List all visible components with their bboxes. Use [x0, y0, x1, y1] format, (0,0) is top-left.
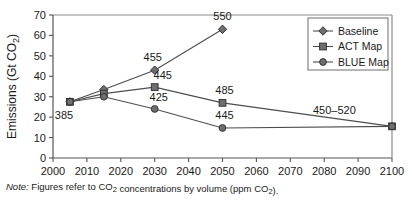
data-point-square — [320, 43, 327, 50]
y-tick-label: 0 — [40, 152, 46, 164]
legend-item-baseline[interactable]: Baseline — [313, 25, 378, 37]
point-label: 450–520 — [313, 104, 356, 116]
data-point-circle — [67, 98, 74, 105]
point-label: 485 — [215, 84, 233, 96]
footnote-note-prefix: Note: — [6, 181, 29, 192]
point-label: 445 — [154, 69, 172, 81]
point-label: 425 — [150, 91, 168, 103]
x-tick-label: 2070 — [278, 165, 302, 177]
x-tick-label: 2060 — [244, 165, 268, 177]
data-point-circle — [389, 123, 396, 130]
data-point-circle — [219, 125, 226, 132]
legend-label: BLUE Map — [338, 56, 389, 68]
legend-label: Baseline — [338, 25, 378, 37]
x-tick-label: 2100 — [380, 165, 404, 177]
x-tick-label: 2000 — [41, 165, 65, 177]
x-tick-label: 2040 — [176, 165, 200, 177]
y-tick-label: 40 — [34, 70, 46, 82]
y-tick-label: 10 — [34, 132, 46, 144]
x-tick-label: 2010 — [75, 165, 99, 177]
x-tick-label: 2080 — [312, 165, 336, 177]
chart-legend: BaselineACT MapBLUE Map — [308, 18, 389, 70]
x-tick-label: 2030 — [142, 165, 166, 177]
emissions-scenarios-chart: 2000201020202030204020502060207020802090… — [0, 0, 412, 200]
point-label: 445 — [215, 109, 233, 121]
y-tick-label: 30 — [34, 91, 46, 103]
legend-label: ACT Map — [338, 40, 382, 52]
point-label: 455 — [144, 51, 162, 63]
x-axis-tick-labels: 2000201020202030204020502060207020802090… — [41, 165, 404, 177]
point-label: 550 — [213, 10, 231, 22]
y-axis-title: Emissions (Gt CO2) — [5, 34, 21, 139]
x-tick-label: 2020 — [109, 165, 133, 177]
y-axis-label: Emissions (Gt CO2) — [5, 34, 21, 139]
data-point-circle — [151, 106, 158, 113]
point-label: 385 — [55, 109, 73, 121]
y-tick-label: 60 — [34, 29, 46, 41]
y-tick-label: 20 — [34, 111, 46, 123]
data-point-square — [151, 84, 158, 91]
y-tick-label: 50 — [34, 50, 46, 62]
data-point-square — [219, 99, 226, 106]
data-point-circle — [320, 59, 327, 66]
data-point-circle — [100, 93, 107, 100]
x-tick-label: 2050 — [210, 165, 234, 177]
x-tick-label: 2090 — [346, 165, 370, 177]
y-tick-label: 70 — [34, 9, 46, 21]
